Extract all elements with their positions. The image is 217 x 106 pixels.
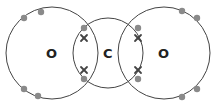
electron-dot-icon (38, 9, 44, 15)
electron-dot-icon (194, 15, 200, 21)
electron-dot-icon (81, 76, 87, 82)
electron-dot-icon (21, 15, 27, 21)
electron-cross-icon (81, 67, 87, 73)
electron-dot-icon (81, 25, 87, 31)
electron-cross-icon (135, 67, 141, 73)
electron-dot-icon (194, 86, 200, 92)
atom-label-carbon: C (103, 46, 113, 61)
electron-dot-icon (21, 86, 27, 92)
electron-dot-icon (135, 25, 141, 31)
electron-dot-icon (35, 93, 41, 99)
atom-labels: O C O (46, 46, 169, 61)
electron-dot-icon (179, 8, 185, 14)
co2-bonding-diagram: O C O (0, 0, 217, 106)
electron-dot-icon (135, 76, 141, 82)
electron-dot-icon (179, 94, 185, 100)
atom-label-oxygen-right: O (158, 46, 169, 61)
electron-cross-icon (81, 35, 87, 41)
atom-label-oxygen-left: O (46, 46, 57, 61)
